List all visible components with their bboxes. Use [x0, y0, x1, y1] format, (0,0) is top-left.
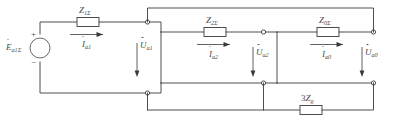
current-a2-subscript: a2: [212, 53, 218, 60]
impedance-box-three-zg: [300, 106, 322, 115]
label-current-a0: Ia0: [322, 50, 331, 59]
current-arrow-a0: [310, 42, 343, 47]
label-z2-sigma: Z2Σ: [206, 16, 218, 25]
source-symbol-with-dot: E: [6, 43, 12, 52]
label-current-a2: Ia2: [209, 50, 218, 59]
overdot-marker: [209, 46, 211, 48]
label-voltage-a0: Ua0: [365, 48, 378, 57]
z0-subscript: 0Σ: [324, 19, 331, 26]
source-plus-sign: +: [31, 30, 36, 39]
terminal-node-a2-top: [261, 30, 265, 34]
positive-sequence-branch: [40, 18, 146, 94]
z2-subscript: 2Σ: [211, 19, 218, 26]
overdot-marker: [82, 36, 84, 38]
label-voltage-a2: Ua2: [256, 48, 269, 57]
source-circle: [30, 38, 50, 58]
wire-source-bottom-to-node-a1-bottom: [40, 62, 146, 93]
impedance-box-z0-sigma: [317, 28, 339, 37]
voltage-a0-symbol: U: [365, 47, 372, 57]
voltage-a2-subscript: a2: [263, 51, 269, 58]
label-voltage-a1: Ua1: [140, 41, 153, 50]
source-subscript: a1Σ: [12, 46, 22, 53]
overdot-marker: [322, 46, 324, 48]
voltage-arrow-a1: [135, 43, 140, 77]
current-arrow-a2: [197, 42, 230, 47]
voltage-a1-symbol-with-dot: U: [140, 41, 147, 50]
three-zg-subscript: g: [311, 97, 314, 104]
voltage-a1-symbol: U: [140, 40, 147, 50]
voltage-a0-symbol-with-dot: U: [365, 48, 372, 57]
source-minus-sign: −: [31, 58, 36, 67]
wire-source-top-to-z1: [40, 22, 77, 34]
voltage-a0-subscript: a0: [372, 51, 378, 58]
current-a1-subscript: a1: [85, 43, 91, 50]
z1-subscript: 1Σ: [84, 9, 91, 16]
impedance-box-z1-sigma: [77, 18, 99, 27]
label-three-zg: 3Zg: [301, 94, 314, 103]
overdot-marker: [367, 44, 369, 46]
wire-tie-a1-bottom-to-mid: [150, 83, 161, 93]
source-label: Ea1Σ: [6, 43, 21, 52]
source-symbol: E: [6, 42, 12, 52]
voltage-source-symbol: [30, 38, 50, 58]
voltage-a1-subscript: a1: [147, 44, 153, 51]
wire-tie-a1-top-to-mid: [150, 22, 161, 32]
label-z1-sigma: Z1Σ: [79, 6, 91, 15]
three-zg-symbol: Z: [306, 93, 311, 103]
current-arrow-a1: [70, 32, 103, 37]
circuit-diagram: Ea1Σ + − Z1Σ Z2Σ Z0Σ 3Zg Ia1 Ia2 Ia0 Ua1…: [0, 0, 395, 132]
voltage-arrow-a0: [360, 47, 365, 77]
voltage-arrow-a2: [251, 47, 256, 77]
wire-ground-rail-right: [322, 83, 374, 110]
label-current-a1: Ia1: [82, 40, 91, 49]
voltage-a2-symbol: U: [256, 47, 263, 57]
wire-outer-top-return: [148, 8, 374, 32]
current-a0-subscript: a0: [325, 53, 331, 60]
overdot-marker: [7, 39, 9, 41]
overdot-marker: [142, 37, 144, 39]
circuit-schematic-canvas: [0, 0, 395, 132]
voltage-a2-symbol-with-dot: U: [256, 48, 263, 57]
impedance-box-z2-sigma: [204, 28, 226, 37]
overdot-marker: [258, 44, 260, 46]
label-z0-sigma: Z0Σ: [319, 16, 331, 25]
